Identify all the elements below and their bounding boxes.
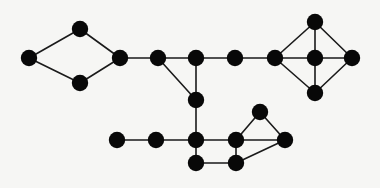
graph-node	[307, 50, 323, 66]
graph-node	[228, 132, 244, 148]
graph-node	[277, 132, 293, 148]
graph-node	[267, 50, 283, 66]
graph-canvas	[0, 0, 380, 188]
graph-node	[150, 50, 166, 66]
graph-node	[344, 50, 360, 66]
graph-node	[188, 92, 204, 108]
graph-diagram	[0, 0, 380, 188]
graph-node	[227, 50, 243, 66]
graph-node	[228, 155, 244, 171]
graph-node	[109, 132, 125, 148]
graph-node	[188, 132, 204, 148]
graph-node	[307, 85, 323, 101]
graph-node	[307, 14, 323, 30]
graph-node	[72, 21, 88, 37]
graph-node	[252, 104, 268, 120]
graph-node	[112, 50, 128, 66]
graph-node	[188, 50, 204, 66]
graph-node	[148, 132, 164, 148]
graph-node	[21, 50, 37, 66]
graph-node	[188, 155, 204, 171]
graph-node	[72, 75, 88, 91]
